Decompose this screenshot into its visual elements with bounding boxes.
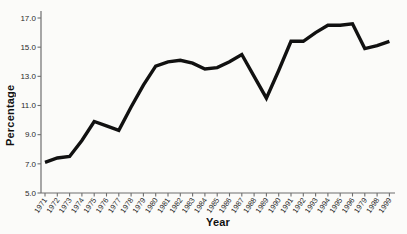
y-tick-label: 11.0 [21,101,37,110]
percentage-line-series [45,24,389,163]
y-tick-label: 9.0 [25,130,37,139]
y-tick-label: 5.0 [25,189,37,198]
line-chart-canvas: 5.07.09.011.013.015.017.0197119721973197… [0,0,407,234]
x-axis-title: Year [41,216,395,228]
y-tick-label: 17.0 [20,14,36,23]
y-axis-title: Percentage [2,50,18,180]
chart-figure: 5.07.09.011.013.015.017.0197119721973197… [0,0,407,234]
y-tick-label: 15.0 [20,43,36,52]
y-tick-label: 13.0 [20,72,36,81]
y-tick-label: 7.0 [25,160,37,169]
x-tick-label: 1999 [377,196,394,215]
